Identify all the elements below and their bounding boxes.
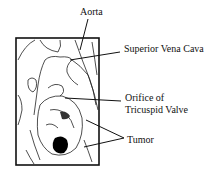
aorta-leader [80, 19, 88, 50]
tumor-mass [53, 136, 68, 153]
heart-diagram [0, 0, 209, 175]
label-orifice-line1: Orifice of [125, 92, 164, 103]
orifice-leader [65, 98, 121, 101]
tumor-leader-lower [84, 138, 124, 147]
label-tumor: Tumor [127, 134, 154, 145]
label-superior-vena-cava: Superior Vena Cava [124, 43, 204, 54]
tumor-shadow [60, 112, 70, 120]
label-orifice-line2: Tricuspid Valve [125, 104, 188, 115]
tumor-leader-upper [86, 120, 124, 138]
label-aorta: Aorta [80, 6, 103, 17]
